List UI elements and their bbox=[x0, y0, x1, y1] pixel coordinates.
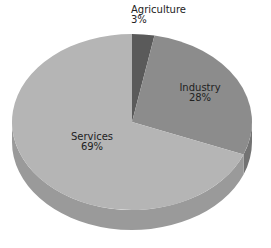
label-industry: Industry 28% bbox=[170, 83, 230, 103]
label-industry-pct: 28% bbox=[170, 93, 230, 103]
pie-chart bbox=[0, 0, 271, 248]
label-agriculture-pct: 3% bbox=[131, 15, 186, 25]
label-services-pct: 69% bbox=[62, 142, 122, 152]
pie-slices bbox=[12, 34, 252, 210]
label-services: Services 69% bbox=[62, 132, 122, 152]
label-agriculture: Agriculture 3% bbox=[131, 5, 186, 25]
